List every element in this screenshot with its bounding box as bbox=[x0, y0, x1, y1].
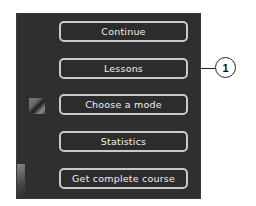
lessons-button[interactable]: Lessons bbox=[59, 58, 188, 79]
decorative-artwork bbox=[29, 98, 45, 114]
main-menu-panel: Continue Lessons Choose a mode Statistic… bbox=[16, 13, 201, 199]
choose-mode-button[interactable]: Choose a mode bbox=[59, 94, 188, 115]
get-complete-course-button[interactable]: Get complete course bbox=[59, 168, 188, 189]
continue-button[interactable]: Continue bbox=[59, 21, 188, 42]
decorative-artwork-edge bbox=[17, 164, 25, 198]
callout-marker: 1 bbox=[215, 57, 236, 78]
statistics-button[interactable]: Statistics bbox=[59, 131, 188, 152]
callout-leader-line bbox=[201, 68, 215, 69]
